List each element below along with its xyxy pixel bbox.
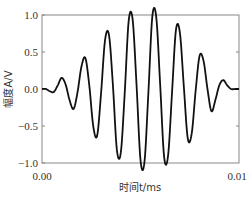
y-tick-label: 0.5 xyxy=(24,46,38,58)
y-tick-label: 0.0 xyxy=(24,83,38,95)
y-tick-label: −1.0 xyxy=(18,157,38,169)
y-axis xyxy=(42,15,239,163)
x-axis-label: 时间t/ms xyxy=(119,181,161,193)
y-tick-label: 1.0 xyxy=(24,9,38,21)
y-tick-label: −0.5 xyxy=(18,120,38,132)
data-line xyxy=(42,8,239,170)
x-tick-label: 0.00 xyxy=(32,170,52,182)
y-axis-label: 幅度A/V xyxy=(2,70,14,107)
chart: 1.0 0.5 0.0 −0.5 −1.0 0.00 0.01 时间t/ms 幅… xyxy=(0,0,248,201)
x-tick-label: 0.01 xyxy=(227,170,246,182)
plot-frame xyxy=(42,15,239,163)
